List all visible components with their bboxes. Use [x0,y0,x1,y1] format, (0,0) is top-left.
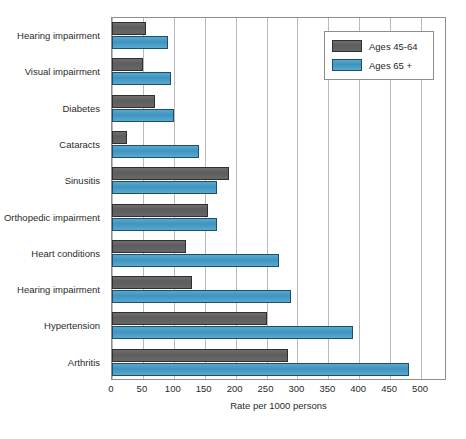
y-tick-label: Hearing impairment [17,30,100,41]
bar-ages-45-64 [112,22,146,35]
bar-ages-65-plus [112,290,291,303]
legend-label: Ages 45-64 [369,41,418,52]
bar-ages-65-plus [112,145,199,158]
bar-ages-65-plus [112,181,217,194]
y-tick-label: Arthritis [68,357,100,368]
bar-ages-65-plus [112,109,174,122]
x-tick-label: 400 [350,383,366,395]
bar-ages-45-64 [112,58,143,71]
bar-group [112,204,445,236]
x-axis-title: Rate per 1000 persons [111,400,446,411]
bar-group [112,276,445,308]
bar-group [112,312,445,344]
bar-group [112,240,445,272]
x-tick-label: 200 [227,383,243,395]
y-tick-label: Visual impairment [25,66,100,77]
y-tick-label: Heart conditions [31,248,100,259]
y-tick-label: Diabetes [63,103,101,114]
x-tick-label: 0 [108,383,113,395]
x-axis-tick-labels: 050100150200250300350400450500 [111,383,446,397]
x-tick-label: 50 [137,383,148,395]
y-axis-labels: Hearing impairmentVisual impairmentDiabe… [0,17,105,380]
bar-ages-45-64 [112,240,186,253]
bar-ages-45-64 [112,312,267,325]
y-tick-label: Orthopedic impairment [4,212,100,223]
bar-ages-45-64 [112,167,229,180]
bar-ages-45-64 [112,95,155,108]
x-tick-label: 500 [412,383,428,395]
x-tick-label: 300 [288,383,304,395]
chart-legend: Ages 45-64 Ages 65 + [324,31,434,80]
bar-ages-65-plus [112,363,409,376]
bar-ages-45-64 [112,131,127,144]
bar-ages-45-64 [112,276,192,289]
bar-ages-45-64 [112,349,288,362]
legend-item-ages-45-64: Ages 45-64 [332,38,427,54]
bar-group [112,167,445,199]
y-tick-label: Hearing impairment [17,284,100,295]
blue-swatch-icon [332,59,362,71]
legend-label: Ages 65 + [369,60,412,71]
bar-ages-65-plus [112,326,353,339]
y-tick-label: Sinusitis [65,175,100,186]
y-tick-label: Cataracts [59,139,100,150]
y-tick-label: Hypertension [44,320,100,331]
bar-chart: Hearing impairmentVisual impairmentDiabe… [0,0,466,439]
bar-group [112,349,445,381]
gray-swatch-icon [332,40,362,52]
bar-ages-45-64 [112,204,208,217]
bar-ages-65-plus [112,72,171,85]
x-tick-label: 250 [258,383,274,395]
x-tick-label: 150 [196,383,212,395]
bar-ages-65-plus [112,218,217,231]
bar-ages-65-plus [112,254,279,267]
legend-item-ages-65-plus: Ages 65 + [332,57,427,73]
x-tick-label: 100 [165,383,181,395]
bar-group [112,95,445,127]
x-tick-label: 350 [319,383,335,395]
x-tick-label: 450 [381,383,397,395]
bar-group [112,131,445,163]
bar-ages-65-plus [112,36,168,49]
